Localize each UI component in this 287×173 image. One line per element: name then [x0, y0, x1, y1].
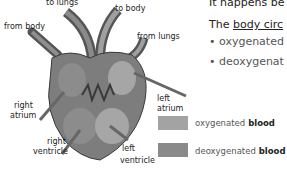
- label-right-atrium-1: right: [14, 101, 33, 110]
- label-to-body: to body: [115, 4, 145, 13]
- bullet-deoxygenated: • deoxygenat: [209, 55, 284, 68]
- label-right-ventricle-2: ventricle: [33, 147, 68, 156]
- legend-oxygenated: oxygenated blood: [195, 118, 275, 128]
- legend-deoxygenated: deoxygenated blood: [195, 146, 286, 156]
- label-left-atrium-1: left: [157, 94, 170, 103]
- legend-swatch-oxygenated: [158, 116, 188, 130]
- label-from-body: from body: [4, 22, 45, 31]
- label-left-atrium-2: atrium: [157, 104, 183, 113]
- bullet-oxygenated: • oxygenated: [209, 35, 284, 48]
- label-right-ventricle-1: right: [47, 137, 66, 146]
- label-left-ventricle-2: ventricle: [120, 156, 155, 165]
- legend-swatch-deoxygenated: [158, 143, 188, 157]
- text-line2: The body circ: [209, 18, 283, 31]
- label-right-atrium-2: atrium: [10, 111, 36, 120]
- label-to-lungs: to lungs: [46, 0, 78, 7]
- text-line1: It happens be: [209, 0, 284, 9]
- label-left-ventricle-1: left: [122, 144, 135, 153]
- label-from-lungs: from lungs: [137, 32, 180, 41]
